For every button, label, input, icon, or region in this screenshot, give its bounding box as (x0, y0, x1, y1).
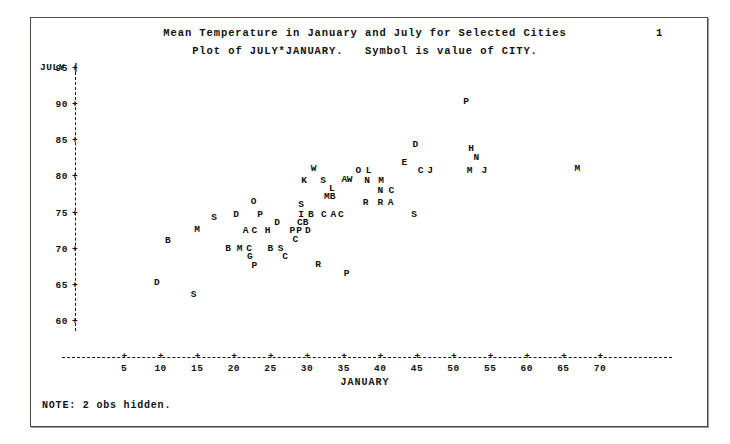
y-tick-label: 95 (42, 63, 68, 74)
data-point-symbol: C (297, 219, 303, 229)
y-tick-label: 75 (42, 208, 68, 219)
x-tick-label: 30 (297, 363, 317, 374)
x-axis-label: JANUARY (0, 377, 730, 388)
data-point-symbol: M (467, 166, 473, 176)
x-tick-mark: + (158, 351, 164, 362)
data-point-symbol: S (411, 210, 417, 220)
data-point-symbol: R (315, 260, 321, 270)
x-tick-label: 15 (187, 363, 207, 374)
x-tick-mark: + (122, 351, 128, 362)
data-point-symbol: C (251, 227, 257, 237)
x-tick-label: 70 (590, 363, 610, 374)
data-point-symbol: O (251, 197, 257, 207)
data-point-symbol: J (427, 167, 433, 177)
data-point-symbol: C (338, 210, 344, 220)
data-point-symbol: B (225, 244, 231, 254)
data-point-symbol: R (377, 198, 383, 208)
x-tick-label: 45 (407, 363, 427, 374)
data-point-symbol: S (320, 177, 326, 187)
data-point-symbol: P (290, 227, 296, 237)
page-subtitle: Plot of JULY*JANUARY. Symbol is value of… (0, 45, 730, 57)
data-point-symbol: M (237, 244, 243, 254)
x-tick-label: 55 (480, 363, 500, 374)
x-tick-mark: + (305, 351, 311, 362)
data-point-symbol: L (366, 166, 372, 176)
sas-output-page: Mean Temperature in January and July for… (0, 0, 730, 444)
x-tick-label: 50 (444, 363, 464, 374)
data-point-symbol: J (481, 166, 487, 176)
x-tick-mark: + (561, 351, 567, 362)
x-tick-label: 60 (517, 363, 537, 374)
page-number: 1 (656, 27, 663, 39)
y-tick-label: 65 (42, 280, 68, 291)
x-tick-mark: + (195, 351, 201, 362)
data-point-symbol: M (378, 176, 384, 186)
x-tick-label: 40 (370, 363, 390, 374)
data-point-symbol: M (194, 225, 200, 235)
data-point-symbol: D (305, 227, 311, 237)
data-point-symbol: P (344, 269, 350, 279)
x-tick-label: 35 (334, 363, 354, 374)
data-point-symbol: W (311, 164, 317, 174)
x-axis-dashed-line (62, 357, 672, 358)
data-point-symbol: D (233, 211, 239, 221)
data-point-symbol: D (413, 141, 419, 151)
data-point-symbol: E (402, 159, 408, 169)
data-point-symbol: S (211, 214, 217, 224)
x-tick-mark: + (524, 351, 530, 362)
data-point-symbol: N (364, 176, 370, 186)
x-tick-mark: + (414, 351, 420, 362)
y-tick-label: 70 (42, 244, 68, 255)
data-point-symbol: B (268, 244, 274, 254)
x-tick-label: 5 (114, 363, 134, 374)
data-point-symbol: C (388, 186, 394, 196)
x-tick-mark: + (378, 351, 384, 362)
data-point-symbol: O (355, 166, 361, 176)
data-point-symbol: W (347, 175, 353, 185)
x-tick-mark: + (488, 351, 494, 362)
data-point-symbol: C (282, 253, 288, 263)
x-tick-mark: + (268, 351, 274, 362)
footer-note: NOTE: 2 obs hidden. (42, 400, 171, 411)
x-tick-label: 65 (553, 363, 573, 374)
y-tick-label: 90 (42, 99, 68, 110)
y-axis-dashed-line (75, 72, 77, 331)
data-point-symbol: B (330, 192, 336, 202)
data-point-symbol: B (165, 237, 171, 247)
data-point-symbol: A (331, 210, 337, 220)
x-tick-label: 25 (260, 363, 280, 374)
data-point-symbol: D (154, 278, 160, 288)
data-point-symbol: N (473, 154, 479, 164)
data-point-symbol: C (418, 167, 424, 177)
data-point-symbol: S (191, 290, 197, 300)
data-point-symbol: K (301, 177, 307, 187)
data-point-symbol: P (257, 211, 263, 221)
data-point-symbol: M (574, 164, 580, 174)
data-point-symbol: N (377, 186, 383, 196)
x-tick-mark: + (341, 351, 347, 362)
data-point-symbol: P (463, 97, 469, 107)
data-point-symbol: A (388, 198, 394, 208)
x-tick-label: 20 (224, 363, 244, 374)
page-title: Mean Temperature in January and July for… (0, 27, 730, 39)
x-tick-mark: + (598, 351, 604, 362)
x-tick-mark: + (451, 351, 457, 362)
y-tick-label: 60 (42, 316, 68, 327)
data-point-symbol: A (243, 227, 249, 237)
data-point-symbol: P (251, 261, 257, 271)
data-point-symbol: I (298, 210, 304, 220)
data-point-symbol: D (274, 219, 280, 229)
y-tick-label: 85 (42, 135, 68, 146)
data-point-symbol: B (308, 210, 314, 220)
y-tick-label: 80 (42, 171, 68, 182)
data-point-symbol: C (293, 235, 299, 245)
data-point-symbol: H (265, 227, 271, 237)
x-tick-mark: + (231, 351, 237, 362)
data-point-symbol: R (363, 198, 369, 208)
data-point-symbol: C (321, 210, 327, 220)
x-tick-label: 10 (151, 363, 171, 374)
